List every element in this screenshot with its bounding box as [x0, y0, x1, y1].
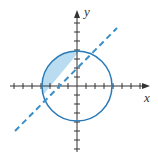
x-axis [10, 83, 150, 89]
y-axis-label: y [82, 4, 90, 19]
dashed-line [15, 28, 117, 131]
graph: y x [0, 0, 158, 159]
x-axis-label: x [143, 90, 150, 105]
shaded-region [0, 0, 130, 132]
